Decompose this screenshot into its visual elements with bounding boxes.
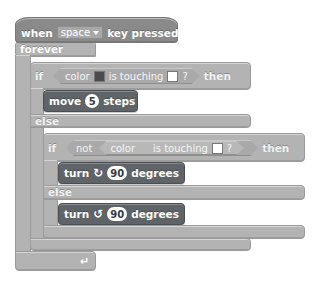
loop-return-arrow-icon: ↵ bbox=[80, 255, 89, 268]
inner-if-block-top[interactable]: if not color is touching ? then bbox=[43, 133, 305, 162]
when-key-pressed-hat-block[interactable]: when space key pressed bbox=[15, 17, 178, 43]
move-prefix: move bbox=[49, 95, 81, 107]
hat-suffix-text: key pressed bbox=[107, 27, 178, 39]
inner-touching-label: is touching bbox=[153, 143, 208, 154]
else-bar bbox=[30, 114, 251, 128]
then-label: then bbox=[204, 70, 231, 82]
inner-color-swatch-white[interactable] bbox=[212, 143, 223, 154]
steps-input[interactable]: 5 bbox=[85, 94, 99, 108]
turn-right-block[interactable]: turn ↻ 90 degrees bbox=[58, 162, 185, 184]
else-label: else bbox=[35, 115, 59, 127]
inner-else-label: else bbox=[48, 186, 72, 198]
inner-else-bar bbox=[43, 185, 305, 200]
key-dropdown[interactable]: space bbox=[57, 26, 103, 39]
move-steps-block[interactable]: move 5 steps bbox=[43, 90, 138, 112]
key-dropdown-value: space bbox=[61, 27, 90, 38]
inner-question-mark: ? bbox=[227, 143, 232, 154]
dropdown-arrow-icon bbox=[93, 31, 99, 35]
turn-left-suffix: degrees bbox=[131, 208, 179, 220]
if-block-top[interactable]: if color is touching ? then bbox=[30, 62, 251, 90]
inner-then-label: then bbox=[262, 142, 289, 154]
move-suffix: steps bbox=[103, 95, 135, 107]
hat-prefix-text: when bbox=[21, 27, 53, 39]
rotate-clockwise-icon: ↻ bbox=[93, 167, 103, 179]
forever-arm bbox=[15, 55, 31, 255]
turn-right-suffix: degrees bbox=[131, 167, 179, 179]
rotate-counterclockwise-icon: ↺ bbox=[93, 208, 103, 220]
color-label: color bbox=[65, 71, 90, 82]
color-swatch-white[interactable] bbox=[167, 71, 178, 82]
turn-right-degrees-input[interactable]: 90 bbox=[107, 166, 127, 180]
turn-right-prefix: turn bbox=[64, 167, 89, 179]
color-swatch-dark[interactable] bbox=[94, 71, 105, 82]
turn-left-degrees-input[interactable]: 90 bbox=[107, 207, 127, 221]
touching-label: is touching bbox=[109, 71, 164, 82]
not-label: not bbox=[76, 143, 92, 154]
forever-label: forever bbox=[20, 43, 63, 55]
question-mark: ? bbox=[182, 71, 187, 82]
if-label: if bbox=[35, 70, 49, 82]
turn-left-prefix: turn bbox=[64, 208, 89, 220]
inner-if-block-bottom bbox=[43, 225, 305, 239]
color-touching-condition[interactable]: color is touching ? bbox=[53, 68, 200, 84]
if-block-bottom bbox=[30, 238, 251, 251]
turn-left-block[interactable]: turn ↺ 90 degrees bbox=[58, 203, 185, 225]
inner-color-label: color bbox=[110, 143, 135, 154]
not-condition[interactable]: not color is touching ? bbox=[66, 140, 258, 156]
if-arm bbox=[30, 88, 44, 250]
inner-if-label: if bbox=[48, 142, 62, 154]
inner-color-touching-condition[interactable]: color is touching ? bbox=[98, 141, 244, 155]
